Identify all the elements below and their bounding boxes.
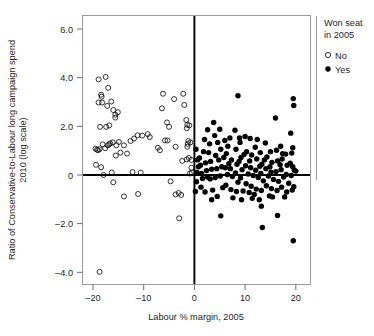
data-point [271, 177, 276, 182]
data-point [200, 176, 205, 181]
data-point [249, 152, 254, 157]
data-point [279, 156, 284, 161]
data-point [251, 173, 256, 178]
data-point [260, 225, 265, 230]
data-point [210, 187, 215, 192]
data-point [189, 165, 194, 170]
data-point [241, 152, 246, 157]
y-tick-label-4: 4.0 [60, 73, 73, 83]
data-point [209, 197, 214, 202]
y-tick-label-2: 2.0 [60, 122, 73, 132]
data-point [270, 194, 275, 199]
legend-title-line2: in 2005 [324, 30, 354, 40]
data-point [253, 145, 258, 150]
data-point [215, 140, 220, 145]
data-point [268, 169, 273, 174]
data-point [288, 130, 293, 135]
data-point [197, 155, 202, 160]
data-point [204, 168, 209, 173]
data-point [221, 155, 226, 160]
data-point [160, 91, 165, 96]
data-point [215, 194, 220, 199]
data-point [106, 85, 111, 90]
data-point [194, 170, 199, 175]
data-point [159, 106, 164, 111]
data-point [290, 187, 295, 192]
data-point [234, 189, 239, 194]
data-point [286, 181, 291, 186]
legend: Won seat in 2005 No Yes [317, 16, 364, 180]
y-tick-label-6: 6.0 [60, 25, 73, 35]
data-point [245, 171, 250, 176]
data-point [233, 170, 238, 175]
data-point [274, 147, 279, 152]
data-point [109, 99, 114, 104]
data-point [247, 136, 252, 141]
data-point [217, 127, 222, 132]
data-point [130, 170, 135, 175]
data-point [276, 179, 281, 184]
data-point [128, 138, 133, 143]
x-axis-ticks: –20 –10 0 10 20 [85, 285, 301, 304]
data-point [226, 161, 231, 166]
legend-marker-yes [325, 66, 330, 71]
data-point [284, 189, 289, 194]
data-point [269, 186, 274, 191]
data-point [291, 96, 296, 101]
data-point [227, 135, 232, 140]
data-point [207, 176, 212, 181]
data-point [98, 124, 103, 129]
data-point [212, 133, 217, 138]
y-tick-label-neg4: –4.0 [55, 268, 73, 278]
data-point [205, 127, 210, 132]
data-point [118, 150, 123, 155]
data-point [116, 139, 121, 144]
data-point [223, 183, 228, 188]
data-point [173, 192, 178, 197]
data-point [255, 137, 260, 142]
y-axis-title-line2: 2010 (log scale) [18, 117, 28, 182]
data-point [99, 165, 104, 170]
data-point [267, 164, 272, 169]
data-point [211, 120, 216, 125]
data-point [196, 164, 201, 169]
data-point [180, 158, 185, 163]
legend-title-line1: Won seat [324, 18, 363, 28]
data-point [257, 164, 262, 169]
data-point [289, 150, 294, 155]
data-point [181, 91, 186, 96]
data-point [238, 175, 243, 180]
data-point [289, 173, 294, 178]
data-point [283, 172, 288, 177]
data-point [268, 149, 273, 154]
data-point [107, 123, 112, 128]
data-point [242, 134, 247, 139]
scatter-plot-figure: Ratio of Conservative-to-Labour long cam… [0, 0, 374, 336]
data-point [243, 163, 248, 168]
data-point [278, 167, 283, 172]
x-tick-label-10: 10 [240, 293, 250, 303]
data-point [103, 74, 108, 79]
data-point [257, 197, 262, 202]
data-point [202, 189, 207, 194]
data-point [274, 188, 279, 193]
data-point [96, 77, 101, 82]
data-point [237, 135, 242, 140]
data-point [222, 138, 227, 143]
data-point [277, 162, 282, 167]
data-point [209, 166, 214, 171]
x-tick-label-neg10: –10 [136, 293, 151, 303]
data-point [194, 179, 199, 184]
data-point [291, 238, 296, 243]
data-point [264, 183, 269, 188]
data-point [193, 189, 198, 194]
data-point [172, 97, 177, 102]
x-tick-label-20: 20 [291, 293, 301, 303]
data-point [228, 166, 233, 171]
y-axis-title: Ratio of Conservative-to-Labour long cam… [7, 40, 28, 260]
data-point [250, 196, 255, 201]
data-point [247, 158, 252, 163]
data-point [243, 181, 248, 186]
data-point [290, 145, 295, 150]
data-point [258, 171, 263, 176]
